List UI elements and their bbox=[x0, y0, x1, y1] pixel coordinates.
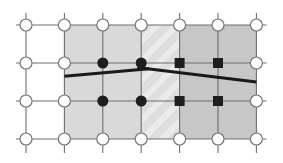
open-node-circle bbox=[20, 133, 32, 145]
open-node-circle bbox=[97, 133, 109, 145]
open-node-circle bbox=[135, 133, 147, 145]
filled-node-square bbox=[175, 96, 185, 106]
regions-layer bbox=[64, 25, 256, 139]
open-node-circle bbox=[58, 57, 70, 69]
diagram-canvas bbox=[0, 0, 283, 163]
filled-node-circle bbox=[97, 58, 108, 69]
filled-node-square bbox=[213, 96, 223, 106]
open-node-circle bbox=[212, 19, 224, 31]
open-node-circle bbox=[212, 133, 224, 145]
open-node-circle bbox=[250, 57, 262, 69]
filled-node-square bbox=[213, 58, 223, 68]
open-node-circle bbox=[58, 95, 70, 107]
open-node-circle bbox=[58, 19, 70, 31]
open-node-circle bbox=[135, 19, 147, 31]
open-node-circle bbox=[250, 133, 262, 145]
open-node-circle bbox=[97, 19, 109, 31]
open-node-circle bbox=[20, 19, 32, 31]
open-node-circle bbox=[20, 57, 32, 69]
filled-node-circle bbox=[136, 96, 147, 107]
open-node-circle bbox=[174, 133, 186, 145]
overlap-band bbox=[141, 25, 179, 139]
grid-diagram bbox=[0, 0, 283, 163]
filled-node-circle bbox=[97, 96, 108, 107]
open-node-circle bbox=[20, 95, 32, 107]
open-node-circle bbox=[58, 133, 70, 145]
open-node-circle bbox=[174, 19, 186, 31]
open-node-circle bbox=[250, 95, 262, 107]
filled-node-square bbox=[175, 58, 185, 68]
open-node-circle bbox=[250, 19, 262, 31]
filled-node-circle bbox=[136, 58, 147, 69]
